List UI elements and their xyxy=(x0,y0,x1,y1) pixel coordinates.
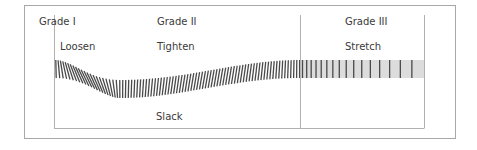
grade-ii-label: Grade II xyxy=(157,16,197,27)
grade-i-label: Grade I xyxy=(39,16,76,27)
grade-iii-label: Grade III xyxy=(345,16,388,27)
slack-label: Slack xyxy=(156,111,183,122)
edge-marks xyxy=(471,8,474,30)
tighten-label: Tighten xyxy=(157,41,195,52)
stretch-label: Stretch xyxy=(345,41,381,52)
loosen-label: Loosen xyxy=(60,41,95,52)
